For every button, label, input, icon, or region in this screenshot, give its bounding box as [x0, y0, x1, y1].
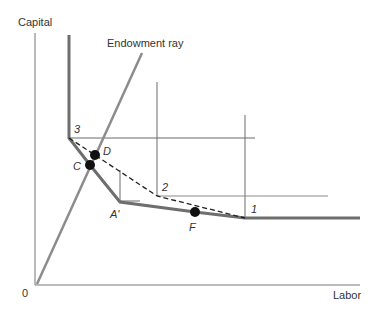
- point-3-label: 3: [74, 124, 80, 135]
- diagram-canvas: [0, 0, 381, 311]
- point-C-label: C: [73, 161, 81, 172]
- point-C: [85, 160, 95, 170]
- point-D-label: D: [103, 146, 111, 157]
- point-2-label: 2: [162, 182, 168, 193]
- point-A-prime-label: A': [110, 209, 119, 220]
- point-F: [190, 207, 200, 217]
- point-1-label: 1: [251, 204, 257, 215]
- origin-label: 0: [22, 288, 28, 299]
- endowment-ray-label: Endowment ray: [107, 38, 183, 49]
- y-axis-label: Capital: [18, 17, 52, 28]
- x-axis-label: Labor: [333, 290, 361, 301]
- point-F-label: F: [189, 222, 196, 233]
- unit-value-isoquant: [69, 35, 360, 218]
- point-D: [90, 150, 100, 160]
